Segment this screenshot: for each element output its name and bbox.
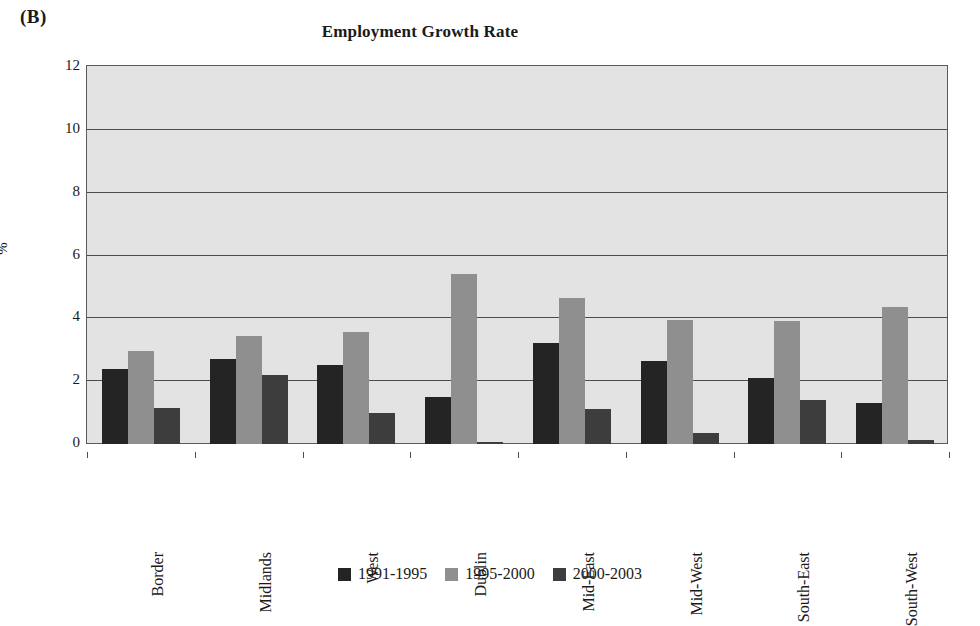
y-tick-label: 10 <box>34 120 80 135</box>
y-tick-label: 6 <box>34 246 80 261</box>
y-tick-label: 8 <box>34 183 80 198</box>
bar[interactable] <box>343 332 369 444</box>
chart-title: Employment Growth Rate <box>0 22 910 42</box>
x-tick-label: South-West <box>903 552 921 626</box>
bar[interactable] <box>533 343 559 444</box>
bar-group <box>626 66 734 444</box>
bar[interactable] <box>559 298 585 444</box>
bar-group <box>734 66 842 444</box>
legend-label: 2000-2003 <box>573 565 642 583</box>
bar[interactable] <box>774 321 800 444</box>
legend-swatch <box>445 568 458 581</box>
y-tick-label: 2 <box>34 372 80 387</box>
x-tick-mark <box>949 452 950 458</box>
bar[interactable] <box>908 440 934 444</box>
x-tick-mark <box>841 452 842 458</box>
legend-item[interactable]: 1991-1995 <box>338 565 427 583</box>
bars-layer <box>87 66 947 444</box>
legend-swatch <box>553 568 566 581</box>
x-tick-mark <box>87 452 88 458</box>
x-tick-mark <box>734 452 735 458</box>
x-tick-label: Mid-West <box>688 552 706 616</box>
x-tick-mark <box>626 452 627 458</box>
legend-label: 1991-1995 <box>358 565 427 583</box>
bar[interactable] <box>236 336 262 444</box>
bar[interactable] <box>641 361 667 444</box>
bar[interactable] <box>210 359 236 444</box>
x-tick-mark <box>518 452 519 458</box>
bar[interactable] <box>748 378 774 444</box>
bar[interactable] <box>856 403 882 444</box>
y-tick-label: 0 <box>34 435 80 450</box>
bar[interactable] <box>317 365 343 444</box>
x-tick-mark <box>303 452 304 458</box>
legend-label: 1995-2000 <box>465 565 534 583</box>
y-axis-ticks: 024681012 <box>24 65 80 444</box>
x-tick-mark <box>195 452 196 458</box>
legend-swatch <box>338 568 351 581</box>
bar-group <box>87 66 195 444</box>
legend-item[interactable]: 2000-2003 <box>553 565 642 583</box>
bar[interactable] <box>477 442 503 444</box>
bar[interactable] <box>693 433 719 444</box>
legend: 1991-19951995-20002000-2003 <box>0 565 980 583</box>
bar[interactable] <box>262 375 288 444</box>
bar[interactable] <box>585 409 611 444</box>
bar[interactable] <box>800 400 826 444</box>
bar[interactable] <box>451 274 477 444</box>
bar[interactable] <box>154 408 180 444</box>
bar[interactable] <box>128 351 154 444</box>
bar-group <box>841 66 949 444</box>
legend-item[interactable]: 1995-2000 <box>445 565 534 583</box>
bar[interactable] <box>102 369 128 444</box>
bar[interactable] <box>882 307 908 444</box>
bar-group <box>518 66 626 444</box>
y-tick-label: 12 <box>34 58 80 73</box>
y-axis-label: % <box>0 242 11 255</box>
bar[interactable] <box>425 397 451 444</box>
bar[interactable] <box>369 413 395 444</box>
bar-group <box>410 66 518 444</box>
bar-group <box>195 66 303 444</box>
x-axis-labels: BorderMidlandsWestDublinMid-EastMid-West… <box>87 452 947 557</box>
bar-group <box>303 66 411 444</box>
x-tick-mark <box>410 452 411 458</box>
y-tick-label: 4 <box>34 309 80 324</box>
x-tick-label: South-East <box>795 552 813 622</box>
bar[interactable] <box>667 320 693 444</box>
